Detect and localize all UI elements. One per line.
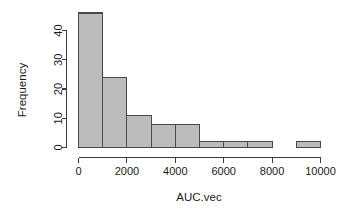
x-tick-label: 6000 xyxy=(211,165,235,177)
histogram-bar xyxy=(296,142,320,148)
y-tick-label: 10 xyxy=(52,112,64,124)
histogram-bar xyxy=(200,142,224,148)
histogram-bar xyxy=(151,124,175,147)
histogram-bar xyxy=(127,115,151,147)
x-tick-label: 4000 xyxy=(163,165,187,177)
x-tick-label: 8000 xyxy=(260,165,284,177)
histogram-bar xyxy=(79,13,103,148)
histogram-bar xyxy=(248,142,272,148)
x-tick-label: 0 xyxy=(75,165,81,177)
x-tick-label: 2000 xyxy=(115,165,139,177)
x-axis-title: AUC.vec xyxy=(176,191,222,203)
histogram-bar xyxy=(175,124,199,147)
y-tick-label: 20 xyxy=(52,83,64,95)
y-tick-label: 0 xyxy=(52,144,64,150)
histogram-bar xyxy=(224,142,248,148)
plot-canvas: 010203040 0200040006000800010000 Frequen… xyxy=(0,0,354,213)
y-tick-label: 30 xyxy=(52,54,64,66)
histogram-bar xyxy=(103,77,127,147)
y-axis-title: Frequency xyxy=(16,63,28,118)
x-tick-label: 10000 xyxy=(305,165,336,177)
y-tick-label: 40 xyxy=(52,24,64,36)
histogram-plot: 010203040 0200040006000800010000 Frequen… xyxy=(0,0,354,213)
